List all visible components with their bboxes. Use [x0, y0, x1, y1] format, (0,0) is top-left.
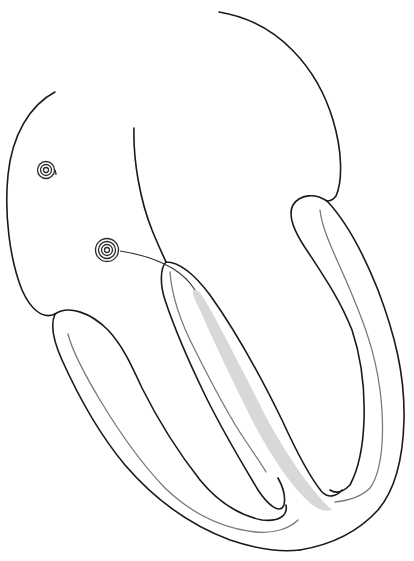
- interventricular-septum-right-wall: [166, 262, 342, 496]
- right-atrium-outline: [219, 12, 341, 201]
- sa-node-spiral-icon: [38, 162, 57, 179]
- right-ventricle-inner-line: [320, 210, 383, 502]
- right-ventricle-wall: [291, 196, 364, 493]
- septum-inner-line: [170, 272, 266, 472]
- heart-diagram: [0, 0, 414, 561]
- conduction-lead: [120, 251, 195, 290]
- left-atrium-outline: [7, 92, 55, 316]
- atrial-septum: [134, 128, 166, 262]
- heart-diagram-svg: [0, 0, 414, 561]
- av-node-spiral-icon: [96, 239, 119, 262]
